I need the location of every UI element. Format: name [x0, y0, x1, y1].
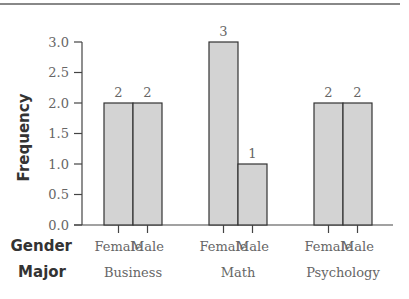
bar-value-label: 2 [114, 85, 122, 100]
gender-label: Male [236, 239, 269, 254]
gender-label: Male [341, 239, 374, 254]
gender-row-title: Gender [11, 237, 73, 255]
y-tick-label: 2.5 [48, 65, 69, 80]
bar-chart: 0.00.51.01.52.02.53.0Frequency2Female2Ma… [0, 0, 409, 299]
y-tick-label: 1.5 [48, 126, 69, 141]
bar-value-label: 2 [353, 85, 361, 100]
major-label: Psychology [306, 265, 380, 280]
bar-math-female [209, 42, 238, 225]
y-tick-label: 1.0 [48, 157, 69, 172]
bar-value-label: 2 [143, 85, 151, 100]
gender-label: Male [131, 239, 164, 254]
bar-business-female [104, 103, 133, 225]
bar-psychology-female [314, 103, 343, 225]
bar-psychology-male [343, 103, 372, 225]
y-tick-label: 3.0 [48, 35, 69, 50]
bar-value-label: 3 [219, 24, 227, 39]
major-row-title: Major [18, 263, 66, 281]
bar-value-label: 2 [324, 85, 332, 100]
y-tick-label: 0.5 [48, 187, 69, 202]
bar-business-male [133, 103, 162, 225]
y-tick-label: 2.0 [48, 96, 69, 111]
bar-math-male [238, 164, 267, 225]
bar-value-label: 1 [248, 146, 256, 161]
major-label: Business [104, 265, 162, 280]
y-axis-label: Frequency [15, 93, 33, 181]
major-label: Math [221, 265, 256, 280]
y-tick-label: 0.0 [48, 218, 69, 233]
